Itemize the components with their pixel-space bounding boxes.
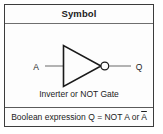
gate-diagram: A Q Inverter or NOT Gate bbox=[5, 24, 153, 107]
boolean-expression: Boolean expression Q = NOT A or A bbox=[11, 113, 147, 122]
boolean-expression-row: Boolean expression Q = NOT A or A bbox=[5, 108, 153, 127]
logic-gate-symbol-figure: Symbol A Q Inverter or NOT Gate bbox=[0, 0, 163, 134]
inversion-bubble-icon bbox=[101, 62, 109, 70]
output-label-q: Q bbox=[136, 62, 143, 72]
page-title: Symbol bbox=[62, 9, 97, 19]
boolean-expression-prefix: Boolean expression Q = NOT A or bbox=[11, 112, 141, 122]
inverter-triangle bbox=[64, 46, 102, 87]
card-header: Symbol bbox=[5, 5, 153, 23]
gate-caption: Inverter or NOT Gate bbox=[5, 90, 153, 99]
symbol-card: Symbol A Q Inverter or NOT Gate bbox=[4, 4, 154, 127]
boolean-expression-overbar-term: A bbox=[141, 112, 147, 122]
input-label-a: A bbox=[33, 62, 39, 72]
